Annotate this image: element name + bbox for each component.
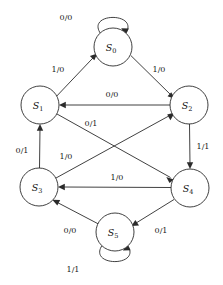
- edge-label-s4-s3: 1/0: [111, 173, 124, 182]
- edge-path-s4-s5: [135, 200, 175, 225]
- edge-path-s4-s3: [62, 187, 172, 188]
- edge-s2-to-s4: 1/1: [187, 124, 210, 169]
- edge-s0-to-s2: 1/0: [131, 56, 175, 100]
- edge-path-s3-s1: [40, 128, 41, 169]
- arrowhead-s2-s4: [187, 162, 193, 169]
- edge-label-s0-s0: 0/0: [60, 13, 73, 22]
- edge-s4-to-s3: 1/0: [58, 173, 171, 190]
- node-s0[interactable]: S0: [94, 28, 132, 66]
- edge-label-s2-s4: 1/1: [197, 142, 210, 151]
- node-s5[interactable]: S5: [96, 213, 134, 251]
- edge-s3-to-s2: 1/0: [56, 113, 175, 178]
- node-label-s3-subscript: 3: [38, 186, 42, 194]
- edge-path-s0-s2: [131, 56, 173, 97]
- edge-label-s4-s5: 0/1: [155, 226, 168, 235]
- edge-s1-to-s0: 1/0: [52, 53, 98, 96]
- edge-s5-to-s3: 0/0: [52, 200, 98, 235]
- node-label-s1-subscript: 1: [39, 104, 43, 112]
- edge-label-s5-s5: 1/1: [67, 265, 80, 274]
- edge-label-s5-s3: 0/0: [64, 226, 77, 235]
- edge-s2-to-s1: 0/0: [59, 90, 170, 108]
- edge-label-s3-s2: 1/0: [60, 152, 73, 161]
- node-s1[interactable]: S1: [21, 86, 59, 124]
- edge-path-s1-s0: [57, 56, 95, 96]
- node-label-s2-subscript: 2: [188, 104, 192, 112]
- state-machine-diagram: 0/0 1/0 1/0 0/0 0/1: [0, 0, 223, 285]
- state-diagram-container: 0/0 1/0 1/0 0/0 0/1: [0, 0, 223, 285]
- edge-path-s5-s3: [56, 202, 99, 225]
- edge-s4-to-s5: 0/1: [131, 200, 174, 236]
- edge-path-s2-s4: [190, 124, 191, 166]
- arrowhead-s2-s1: [59, 102, 66, 108]
- node-label-s5-subscript: 5: [114, 231, 118, 239]
- arrowhead-s5-s3: [52, 200, 60, 206]
- edge-label-s1-s0: 1/0: [52, 65, 65, 74]
- edge-label-s1-s4: 0/1: [85, 119, 98, 128]
- node-s2[interactable]: S2: [170, 86, 208, 124]
- node-s4[interactable]: S4: [171, 169, 209, 207]
- arrowhead-s4-s3: [58, 184, 65, 190]
- arrowhead-s3-s1: [37, 124, 43, 131]
- node-label-s0-subscript: 0: [112, 46, 116, 54]
- node-label-s4-subscript: 4: [189, 187, 193, 195]
- edge-label-s3-s1: 0/1: [16, 146, 29, 155]
- node-s3[interactable]: S3: [20, 168, 58, 206]
- edge-label-s2-s1: 0/0: [106, 90, 119, 99]
- edge-s3-to-s1: 0/1: [16, 124, 44, 168]
- edge-label-s0-s2: 1/0: [153, 65, 166, 74]
